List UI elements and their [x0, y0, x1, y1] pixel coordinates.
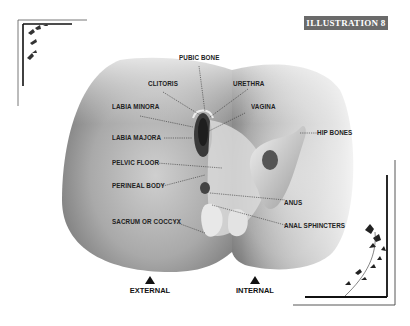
external-view-arrow-icon [145, 276, 155, 284]
internal-view-arrow-icon [250, 276, 260, 284]
label-sacrum-or-coccyx: SACRUM OR COCCYX [112, 218, 181, 225]
label-pubic-bone: PUBIC BONE [179, 54, 219, 61]
label-anal-sphincters: ANAL SPHINCTERS [284, 222, 345, 229]
label-urethra: URETHRA [233, 80, 264, 87]
label-labia-majora: LABIA MAJORA [112, 134, 161, 141]
label-hip-bones: HIP BONES [317, 129, 352, 136]
label-anus: ANUS [284, 199, 302, 206]
label-pelvic-floor: PELVIC FLOOR [112, 159, 159, 166]
external-view-label: EXTERNAL [120, 286, 180, 295]
label-vagina: VAGINA [251, 103, 276, 110]
internal-view-label: INTERNAL [225, 286, 285, 295]
label-perineal-body: PERINEAL BODY [112, 182, 165, 189]
decorative-corner-top-left [15, 18, 90, 108]
label-clitoris: CLITORIS [148, 80, 178, 87]
label-labia-minora: LABIA MINORA [112, 103, 159, 110]
decorative-corner-bottom-right [285, 160, 400, 312]
illustration-number-badge: ILLUSTRATION 8 [304, 16, 388, 30]
